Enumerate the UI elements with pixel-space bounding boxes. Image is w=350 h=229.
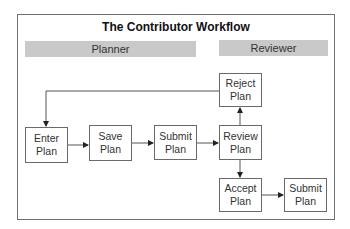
node-label-line1: Save [90,130,131,143]
node-label-line1: Enter [26,132,67,145]
node-label-line1: Review [220,130,261,143]
node-label-line2: Plan [90,143,131,156]
node-reject-plan: Reject Plan [219,73,262,107]
node-label-line1: Submit [155,130,196,143]
node-label-line1: Accept [220,182,261,195]
node-label-line2: Plan [155,143,196,156]
node-submit-final-plan: Submit Plan [284,178,327,212]
node-review-plan: Review Plan [219,125,262,160]
node-enter-plan: Enter Plan [25,127,68,163]
node-label-line2: Plan [220,143,261,156]
node-save-plan: Save Plan [89,125,132,161]
node-label-line1: Reject [220,77,261,90]
node-label-line2: Plan [26,145,67,158]
node-accept-plan: Accept Plan [219,178,262,212]
node-label-line2: Plan [285,195,326,208]
node-submit-plan: Submit Plan [154,125,197,160]
node-label-line2: Plan [220,90,261,103]
node-label-line1: Submit [285,182,326,195]
node-label-line2: Plan [220,195,261,208]
